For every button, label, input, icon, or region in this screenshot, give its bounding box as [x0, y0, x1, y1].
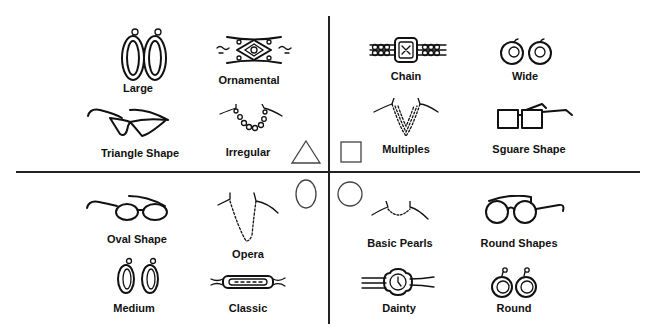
oval-glasses-icon [85, 192, 173, 224]
wide-earrings-icon [498, 38, 556, 66]
label-dainty: Dainty [382, 302, 416, 314]
round-earrings-icon [490, 266, 540, 300]
oval-face-shape-icon [293, 178, 319, 210]
round-face-shape-icon [336, 180, 364, 208]
label-round: Round [497, 302, 532, 314]
face-shape-accessory-diagram: Large Ornamental Triangle Shape Irregula… [0, 0, 656, 335]
label-chain: Chain [391, 70, 422, 82]
vertical-divider [328, 16, 330, 324]
label-opera: Opera [232, 248, 264, 260]
label-triangle-shape: Triangle Shape [101, 147, 179, 159]
ornamental-bracelet-icon [215, 34, 293, 66]
label-basic-pearls: Basic Pearls [367, 237, 432, 249]
label-multiples: Multiples [382, 143, 430, 155]
label-classic: Classic [229, 302, 268, 314]
label-large: Large [123, 82, 153, 94]
label-wide: Wide [512, 70, 538, 82]
label-square-shape: Sguare Shape [492, 143, 565, 155]
round-glasses-icon [483, 195, 569, 225]
irregular-necklace-icon [218, 104, 284, 134]
classic-watch-icon [209, 274, 287, 290]
label-ornamental: Ornamental [218, 74, 279, 86]
square-glasses-icon [496, 101, 574, 131]
label-irregular: Irregular [226, 146, 271, 158]
label-medium: Medium [113, 302, 155, 314]
triangle-face-shape-icon [290, 139, 322, 165]
multiple-strand-necklace-icon [372, 98, 440, 138]
large-hoop-earrings-icon [118, 26, 168, 84]
chain-watch-icon [368, 36, 448, 64]
label-oval-shape: Oval Shape [107, 233, 167, 245]
label-round-shapes: Round Shapes [480, 237, 557, 249]
opera-necklace-icon [216, 191, 280, 245]
pearl-necklace-icon [370, 201, 430, 223]
square-face-shape-icon [340, 141, 362, 163]
medium-hoop-earrings-icon [114, 257, 162, 295]
dainty-watch-icon [360, 267, 436, 297]
cat-eye-glasses-icon [86, 104, 170, 142]
